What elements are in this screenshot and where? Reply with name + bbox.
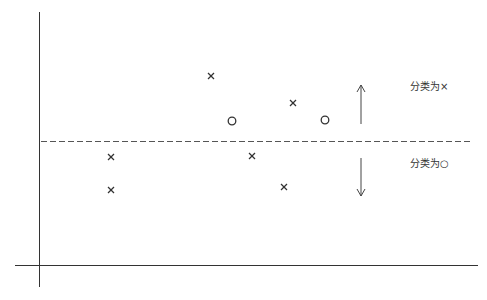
cross-point-icon	[208, 73, 214, 79]
cross-point-icon	[108, 187, 114, 193]
circle-point-icon	[321, 116, 329, 124]
cross-point-icon	[290, 100, 296, 106]
circle-point-icon	[228, 117, 236, 125]
label-class-o: 分类为○	[410, 158, 449, 170]
arrow-down-icon	[357, 158, 365, 196]
arrows-group	[357, 85, 365, 196]
cross-point-icon	[108, 154, 114, 160]
arrow-up-icon	[357, 85, 365, 124]
diagram-canvas	[0, 0, 487, 300]
cross-point-icon	[281, 184, 287, 190]
label-class-x: 分类为×	[410, 81, 448, 93]
points-group	[108, 73, 329, 193]
cross-point-icon	[249, 153, 255, 159]
